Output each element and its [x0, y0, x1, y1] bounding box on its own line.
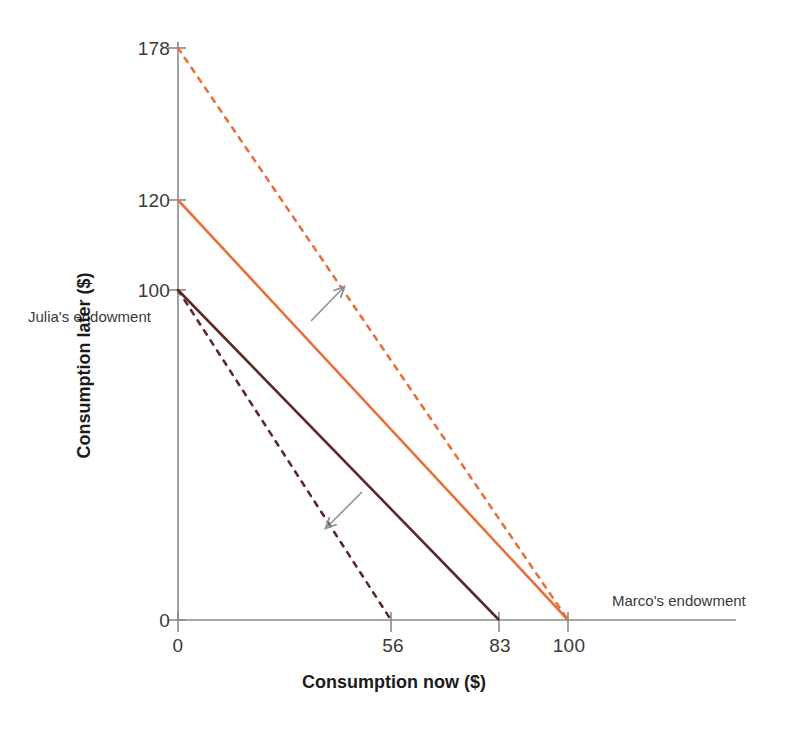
marco-expanded-budget-line	[178, 48, 568, 620]
x-axis-title: Consumption now ($)	[0, 672, 788, 693]
up-right-arrow	[311, 287, 344, 321]
marco-endowment-label: Marco's endowment	[612, 592, 746, 609]
down-left-arrow	[326, 492, 362, 528]
budget-constraint-chart: 178 120 100 0 0 56 83 100 Julia's endowm…	[0, 0, 788, 739]
x-tick-label-0: 0	[158, 635, 198, 657]
y-axis-title: Consumption later ($)	[74, 266, 95, 466]
y-tick-label-100: 100	[110, 280, 170, 302]
y-tick-label-178: 178	[110, 38, 170, 60]
y-tick-label-120: 120	[110, 190, 170, 212]
x-tick-label-56: 56	[373, 635, 413, 657]
x-tick-label-83: 83	[480, 635, 520, 657]
julia-contracted-budget-line	[178, 290, 391, 620]
y-tick-label-0: 0	[110, 610, 170, 632]
x-tick-label-100: 100	[546, 635, 592, 657]
marco-budget-line	[178, 200, 568, 620]
julia-budget-line	[178, 290, 499, 620]
